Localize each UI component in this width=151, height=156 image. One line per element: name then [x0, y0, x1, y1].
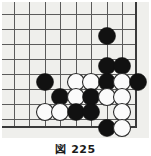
board-border — [2, 2, 136, 127]
figure-caption: 図 225 — [0, 144, 151, 156]
go-board[interactable] — [2, 2, 149, 138]
go-board-canvas[interactable] — [2, 2, 149, 138]
black-stone — [130, 74, 147, 91]
board-grid — [2, 2, 136, 127]
go-diagram-figure: 図 225 — [0, 0, 151, 156]
